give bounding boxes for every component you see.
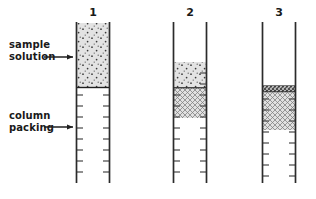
column-packing-label-line1: column [9,110,50,121]
column-3-sample-band [263,86,295,92]
column-3-separated-band [263,93,295,131]
sample-solution-label-line1: sample [9,39,50,50]
column-3-label: 3 [275,6,283,19]
column-1-label: 1 [89,6,97,19]
column-2-label: 2 [186,6,194,19]
column-2-separated-band [174,89,206,119]
diagram-canvas: 1 [0,0,316,199]
column-1-sample-band [77,23,109,87]
chromatography-diagram: 1 [0,0,316,199]
